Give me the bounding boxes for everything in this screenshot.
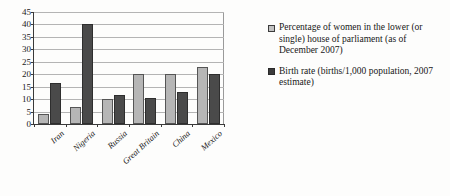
y-axis-tick-label: 30 xyxy=(22,45,31,54)
y-axis-tick-label: 25 xyxy=(22,57,31,66)
legend-swatch-dark-gray-square xyxy=(268,68,275,75)
x-axis-category-label: Russia xyxy=(106,129,129,151)
x-axis-tick-mark xyxy=(97,124,98,127)
bar-women-parliament xyxy=(38,114,49,124)
bar-group xyxy=(192,12,224,124)
y-axis-tick-label: 15 xyxy=(22,82,31,91)
bar-group xyxy=(34,12,66,124)
bar-birth-rate xyxy=(82,24,93,124)
x-axis-tick-mark xyxy=(161,124,162,127)
plot-area: 051015202530354045 IranNigeriaRussiaGrea… xyxy=(33,12,224,125)
y-axis-tick-label: 40 xyxy=(22,20,31,29)
bar-group xyxy=(129,12,161,124)
legend-swatch-light-gray-square xyxy=(268,25,275,32)
x-axis-tick-mark xyxy=(129,124,130,127)
bar-birth-rate xyxy=(50,83,61,124)
bar-women-parliament xyxy=(70,107,81,124)
bar-chart-figure: 051015202530354045 IranNigeriaRussiaGrea… xyxy=(0,0,450,196)
bar-women-parliament xyxy=(197,67,208,124)
bar-women-parliament xyxy=(102,99,113,124)
bar-birth-rate xyxy=(177,92,188,124)
bar-birth-rate xyxy=(209,74,220,124)
x-axis-tick-mark xyxy=(66,124,67,127)
y-axis-tick-label: 10 xyxy=(22,95,31,104)
legend-label: Birth rate (births/1,000 population, 200… xyxy=(279,66,446,89)
legend-entry: Birth rate (births/1,000 population, 200… xyxy=(268,66,446,89)
y-axis-tick-label: 35 xyxy=(22,32,31,41)
bar-group xyxy=(97,12,129,124)
x-axis-tick-mark xyxy=(224,124,225,127)
y-axis-tick-label: 45 xyxy=(22,8,31,17)
bar-group xyxy=(66,12,98,124)
bar-women-parliament xyxy=(165,74,176,124)
chart-legend: Percentage of women in the lower (or sin… xyxy=(268,22,446,98)
x-axis-tick-mark xyxy=(34,124,35,127)
x-axis-category-label: China xyxy=(171,129,192,150)
y-axis-tick-label: 20 xyxy=(22,70,31,79)
bar-women-parliament xyxy=(133,74,144,124)
x-axis-category-label: Mexico xyxy=(199,129,224,152)
legend-entry: Percentage of women in the lower (or sin… xyxy=(268,22,446,57)
bar-birth-rate xyxy=(114,95,125,124)
bar-group xyxy=(161,12,193,124)
x-axis-category-label: Iran xyxy=(49,129,66,145)
bar-birth-rate xyxy=(145,98,156,124)
legend-label: Percentage of women in the lower (or sin… xyxy=(279,22,446,57)
x-axis-tick-mark xyxy=(192,124,193,127)
x-axis-category-label: Nigeria xyxy=(72,129,97,153)
